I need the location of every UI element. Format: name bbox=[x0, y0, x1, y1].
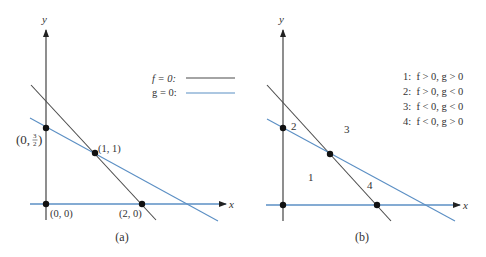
svg-text:(0,: (0, bbox=[16, 132, 30, 147]
caption-b: (b) bbox=[355, 230, 369, 244]
region-1-label: 1 bbox=[308, 171, 314, 183]
g-zero-line bbox=[30, 118, 218, 221]
region-2-label: 2 bbox=[291, 120, 297, 132]
label-origin: (0, 0) bbox=[50, 208, 73, 220]
label-2-0: (2, 0) bbox=[119, 208, 142, 220]
legend-a: f = 0: g = 0: bbox=[152, 73, 235, 98]
legend-f-label: f = 0: bbox=[152, 73, 176, 84]
panel-b: x y 1 2 3 4 1: f > 0, g > 0 2: f > 0, g … bbox=[266, 13, 468, 244]
point-2-0 bbox=[139, 201, 145, 207]
region-4-label: 4 bbox=[367, 179, 373, 191]
caption-a: (a) bbox=[115, 230, 128, 244]
label-0-three-halves: (0, 3 2 ) bbox=[16, 132, 42, 148]
figure: x y (0, 0) (2, 0) (1, 1) (0, 3 2 ) f = 0… bbox=[0, 0, 486, 257]
legend-region-3: 3: f < 0, g < 0 bbox=[403, 101, 463, 112]
legend-region-4: 4: f < 0, g > 0 bbox=[403, 116, 463, 127]
legend-g-label: g = 0: bbox=[152, 87, 177, 98]
point-origin bbox=[280, 202, 286, 208]
x-axis-label: x bbox=[228, 198, 234, 210]
legend-region-1: 1: f > 0, g > 0 bbox=[403, 71, 463, 82]
label-1-1: (1, 1) bbox=[98, 143, 121, 155]
x-axis-label: x bbox=[462, 199, 468, 211]
y-axis-label: y bbox=[278, 13, 284, 25]
legend-region-2: 2: f > 0, g < 0 bbox=[403, 86, 463, 97]
point-2-0 bbox=[374, 202, 380, 208]
point-origin bbox=[43, 201, 49, 207]
svg-text:2: 2 bbox=[33, 140, 37, 148]
y-axis-label: y bbox=[41, 13, 47, 25]
point-0-1.5 bbox=[43, 125, 49, 131]
g-zero-line bbox=[267, 119, 455, 221]
svg-text:3: 3 bbox=[33, 132, 37, 140]
svg-text:): ) bbox=[38, 132, 42, 147]
region-3-label: 3 bbox=[344, 123, 350, 135]
point-1-1 bbox=[327, 151, 333, 157]
panel-a: x y (0, 0) (2, 0) (1, 1) (0, 3 2 ) f = 0… bbox=[16, 13, 235, 244]
point-0-1.5 bbox=[280, 125, 286, 131]
legend-b: 1: f > 0, g > 0 2: f > 0, g < 0 3: f < 0… bbox=[403, 71, 463, 127]
